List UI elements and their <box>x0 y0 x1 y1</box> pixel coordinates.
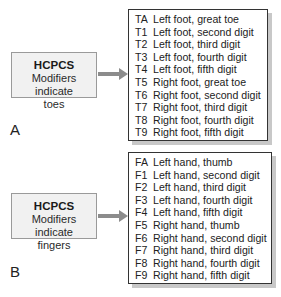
modifier-code: T6 <box>135 89 153 102</box>
modifier-row: T4Left foot, fifth digit <box>135 63 267 76</box>
modifier-code: T2 <box>135 38 153 51</box>
modifier-code: F3 <box>135 194 153 207</box>
panel-label-b: B <box>10 263 20 280</box>
modifier-row: F8Right hand, fourth digit <box>135 257 271 270</box>
modifier-desc: Right foot, fifth digit <box>153 126 244 138</box>
hcpcs-toes-box: HCPCS Modifiers indicate toes <box>11 52 97 98</box>
modifier-row: F9Right hand, fifth digit <box>135 269 271 282</box>
modifier-desc: Right hand, fourth digit <box>153 257 260 269</box>
modifier-desc: Right hand, third digit <box>153 244 253 256</box>
modifier-row: T5Right foot, great toe <box>135 76 267 89</box>
modifier-desc: Left hand, thumb <box>153 156 233 168</box>
modifier-row: F6Right hand, second digit <box>135 232 271 245</box>
finger-modifier-list: FALeft hand, thumb F1Left hand, second d… <box>128 152 272 284</box>
modifier-desc: Right foot, third digit <box>153 101 247 113</box>
box-subtitle-line1: Modifiers indicate <box>12 213 96 239</box>
modifier-row: F5Right hand, thumb <box>135 219 271 232</box>
modifier-desc: Right hand, second digit <box>153 232 267 244</box>
box-subtitle-line1: Modifiers indicate <box>12 72 96 98</box>
modifier-desc: Left foot, third digit <box>153 38 240 50</box>
toe-modifier-list: TALeft foot, great toe T1Left foot, seco… <box>128 9 268 141</box>
box-title: HCPCS <box>12 58 96 72</box>
modifier-row: T2Left foot, third digit <box>135 38 267 51</box>
modifier-code: T7 <box>135 101 153 114</box>
modifier-code: F1 <box>135 169 153 182</box>
box-subtitle-line2: fingers <box>12 239 96 252</box>
modifier-desc: Left foot, great toe <box>153 13 239 25</box>
modifier-desc: Right foot, fourth digit <box>153 114 254 126</box>
modifier-code: F7 <box>135 244 153 257</box>
box-subtitle-line2: toes <box>12 98 96 111</box>
modifier-code: F4 <box>135 206 153 219</box>
modifier-code: T4 <box>135 63 153 76</box>
modifier-code: T5 <box>135 76 153 89</box>
modifier-row: TALeft foot, great toe <box>135 13 267 26</box>
modifier-code: T1 <box>135 26 153 39</box>
arrow-right-icon <box>98 72 120 76</box>
modifier-desc: Right foot, second digit <box>153 89 261 101</box>
modifier-desc: Right hand, fifth digit <box>153 269 250 281</box>
modifier-row: T1Left foot, second digit <box>135 26 267 39</box>
modifier-desc: Left hand, fourth digit <box>153 194 253 206</box>
modifier-desc: Right foot, great toe <box>153 76 246 88</box>
modifier-code: F5 <box>135 219 153 232</box>
hcpcs-fingers-box: HCPCS Modifiers indicate fingers <box>11 193 97 239</box>
modifier-row: F1Left hand, second digit <box>135 169 271 182</box>
modifier-code: F8 <box>135 257 153 270</box>
modifier-row: F3Left hand, fourth digit <box>135 194 271 207</box>
box-title: HCPCS <box>12 199 96 213</box>
modifier-desc: Right hand, thumb <box>153 219 240 231</box>
modifier-code: FA <box>135 156 153 169</box>
modifier-code: T8 <box>135 114 153 127</box>
modifier-row: T8Right foot, fourth digit <box>135 114 267 127</box>
modifier-desc: Left hand, fifth digit <box>153 206 243 218</box>
modifier-desc: Left foot, second digit <box>153 26 254 38</box>
modifier-desc: Left hand, third digit <box>153 181 246 193</box>
modifier-code: F9 <box>135 269 153 282</box>
modifier-row: F2Left hand, third digit <box>135 181 271 194</box>
modifier-code: F2 <box>135 181 153 194</box>
modifier-row: T7Right foot, third digit <box>135 101 267 114</box>
modifier-desc: Left foot, fifth digit <box>153 63 237 75</box>
panel-label-a: A <box>10 121 20 138</box>
modifier-code: F6 <box>135 232 153 245</box>
modifier-desc: Left foot, fourth digit <box>153 51 247 63</box>
modifier-row: FALeft hand, thumb <box>135 156 271 169</box>
modifier-code: T9 <box>135 126 153 139</box>
modifier-desc: Left hand, second digit <box>153 169 260 181</box>
modifier-code: T3 <box>135 51 153 64</box>
modifier-row: T3Left foot, fourth digit <box>135 51 267 64</box>
modifier-row: T6Right foot, second digit <box>135 89 267 102</box>
modifier-row: F7Right hand, third digit <box>135 244 271 257</box>
modifier-row: T9Right foot, fifth digit <box>135 126 267 139</box>
arrow-right-icon <box>98 214 120 218</box>
modifier-row: F4Left hand, fifth digit <box>135 206 271 219</box>
modifier-code: TA <box>135 13 153 26</box>
